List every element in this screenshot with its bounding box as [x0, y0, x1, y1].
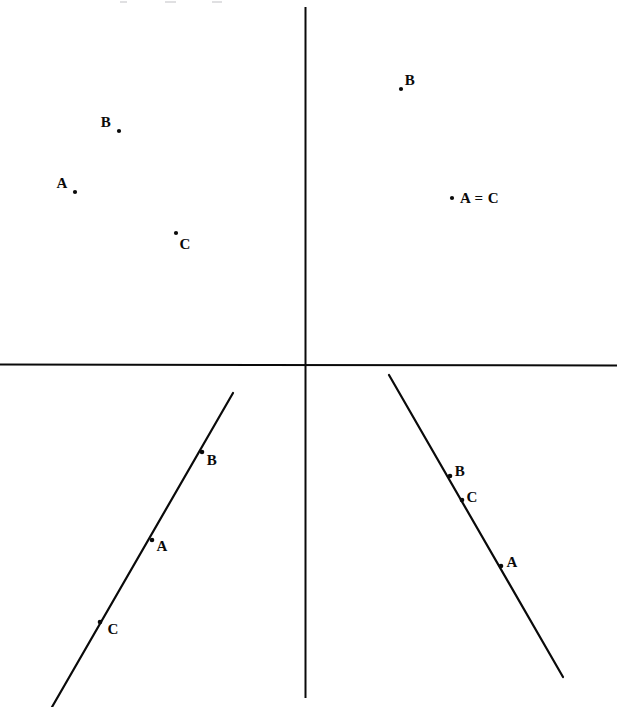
point-dot-ac-upper-right	[450, 196, 454, 200]
point-dot-c-upper-left	[174, 231, 178, 235]
point-label-b-upper-right: B	[405, 73, 415, 88]
point-label-b-lower-left: B	[207, 453, 217, 468]
point-label-c-lower-right: C	[466, 490, 477, 505]
point-label-a-lower-right: A	[506, 555, 517, 570]
point-label-a-equals-c-upper-right: A = C	[460, 191, 499, 206]
point-dots	[73, 87, 503, 624]
point-label-b-lower-right: B	[455, 464, 465, 479]
point-dot-b-lower-right	[448, 474, 453, 479]
point-dot-a-lower-right	[499, 564, 504, 569]
point-dot-c-lower-right	[460, 498, 465, 503]
point-dot-b-upper-left	[117, 129, 121, 133]
point-label-b-upper-left: B	[101, 115, 111, 130]
horizontal-axis	[0, 365, 617, 366]
figure-vector-layer	[0, 0, 619, 707]
figure-canvas: B A C B A = C B A C B C A	[0, 0, 619, 707]
point-label-a-lower-left: A	[156, 539, 167, 554]
lower-left-line	[52, 393, 233, 707]
point-dot-b-lower-left	[200, 450, 205, 455]
point-label-a-upper-left: A	[56, 176, 67, 191]
lower-right-line	[389, 375, 563, 677]
point-label-c-lower-left: C	[107, 622, 118, 637]
point-dot-b-upper-right	[399, 87, 403, 91]
point-dot-a-upper-left	[73, 190, 77, 194]
point-label-c-upper-left: C	[179, 237, 190, 252]
point-dot-a-lower-left	[150, 538, 155, 543]
point-dot-c-lower-left	[98, 620, 103, 625]
